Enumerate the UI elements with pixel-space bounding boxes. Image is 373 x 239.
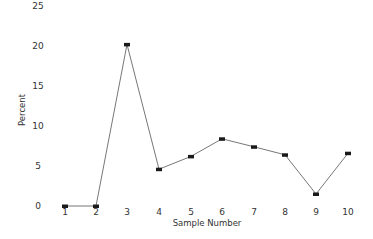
x-tick-label: 9 <box>313 207 319 217</box>
data-point-marker <box>156 168 162 172</box>
data-point-marker <box>282 153 288 157</box>
y-tick-label: 5 <box>35 161 41 171</box>
x-tick-label: 10 <box>342 207 354 217</box>
x-tick-label: 3 <box>124 207 130 217</box>
y-axis-title: Percent <box>17 93 27 126</box>
y-tick-label: 0 <box>35 201 41 211</box>
x-tick-label: 4 <box>156 207 162 217</box>
data-point-marker <box>93 205 99 209</box>
series-line-percent <box>65 44 348 206</box>
data-point-marker <box>313 193 319 197</box>
x-tick-label: 2 <box>93 207 99 217</box>
y-axis-tick-labels: 0510152025 <box>32 1 44 211</box>
data-point-marker <box>124 43 130 47</box>
y-tick-label: 20 <box>32 41 44 51</box>
x-axis-title: Sample Number <box>173 218 242 228</box>
data-point-marker <box>219 137 225 141</box>
x-tick-label: 8 <box>282 207 288 217</box>
y-tick-label: 15 <box>32 81 43 91</box>
data-point-marker <box>188 155 194 159</box>
x-tick-label: 6 <box>219 207 225 217</box>
x-tick-label: 1 <box>62 207 68 217</box>
x-tick-label: 7 <box>251 207 257 217</box>
data-point-marker <box>62 205 68 209</box>
x-axis-tick-labels: 12345678910 <box>62 207 354 217</box>
y-tick-label: 10 <box>32 121 44 131</box>
line-chart: 0510152025 12345678910 Percent Sample Nu… <box>0 0 373 239</box>
x-tick-label: 5 <box>188 207 194 217</box>
data-point-marker <box>345 152 351 156</box>
y-tick-label: 25 <box>32 1 43 11</box>
data-point-marker <box>251 145 257 149</box>
